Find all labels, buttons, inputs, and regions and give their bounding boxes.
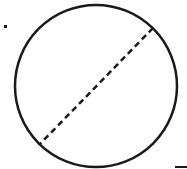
- circle-diagram: [0, 0, 187, 169]
- dot-mark: [4, 25, 7, 28]
- dashed-diameter: [39, 28, 153, 145]
